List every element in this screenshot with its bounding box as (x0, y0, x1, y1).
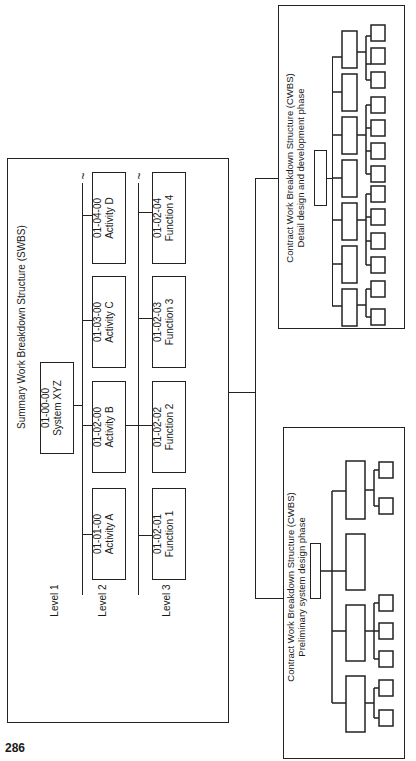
wbs-node-label: 01-00-00System XYZ (40, 362, 74, 454)
page-number: 286 (5, 741, 25, 755)
level-2-label: Level 2 (97, 576, 110, 626)
cwbs-detail-title: Contract Work Breakdown Structure (CWBS)… (284, 68, 310, 268)
connector (228, 392, 256, 393)
wbs-node-label: 01-02-04Function 4 (152, 172, 186, 264)
wbs-node-label: 01-04-00Activity D (92, 172, 126, 264)
continuation-mark: ~ (77, 172, 89, 179)
level-3-label: Level 3 (161, 576, 174, 626)
cwbs-preliminary-root (310, 543, 321, 599)
connector (255, 178, 256, 599)
wbs-node-label: 01-01-00Activity A (92, 488, 126, 580)
wbs-node-label: 01-03-00Activity C (92, 276, 126, 368)
wbs-node-label: 01-02-01Function 1 (152, 488, 186, 580)
wbs-node-label: 01-02-00Activity B (92, 381, 126, 473)
swbs-title: Summary Work Breakdown Structure (SWBS) (16, 229, 30, 429)
wbs-node-label: 01-02-02Function 2 (152, 381, 186, 473)
wbs-node-label: 01-02-03Function 3 (152, 276, 186, 368)
level3-bus (138, 183, 139, 595)
continuation-mark: ~ (133, 172, 145, 179)
cwbs-detail-root (314, 150, 327, 206)
level-1-label: Level 1 (49, 576, 62, 626)
cwbs-preliminary-title: Contract Work Breakdown Structure (CWBS)… (285, 487, 311, 687)
